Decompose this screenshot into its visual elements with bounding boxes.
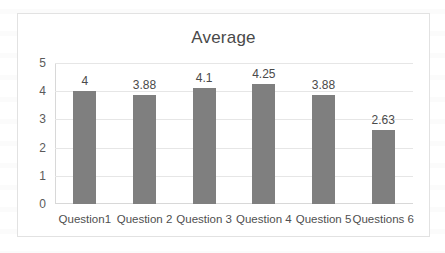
y-tick-label: 2 xyxy=(39,141,46,155)
bar-group: 4.1 Question 3 xyxy=(174,63,234,204)
bar[interactable] xyxy=(252,84,275,204)
bar-value-label: 4.1 xyxy=(174,71,234,85)
bar-group: 3.88 Question 2 xyxy=(115,63,175,204)
bar-value-label: 3.88 xyxy=(294,78,354,92)
chart-container: Average 5 4 3 2 1 0 4 Question1 3.88 Que… xyxy=(17,13,430,237)
bar-value-label: 4.25 xyxy=(234,67,294,81)
y-tick-label: 4 xyxy=(39,84,46,98)
x-tick-label: Questions 6 xyxy=(339,213,427,225)
bar-group: 4.25 Question 4 xyxy=(234,63,294,204)
plot-area: 5 4 3 2 1 0 4 Question1 3.88 Question 2 … xyxy=(55,63,413,204)
y-tick-label: 1 xyxy=(39,169,46,183)
y-tick-label: 3 xyxy=(39,112,46,126)
bar-group: 3.88 Question 5 xyxy=(294,63,354,204)
bar-group: 2.63 Questions 6 xyxy=(353,63,413,204)
bar-group: 4 Question1 xyxy=(55,63,115,204)
bar-value-label: 2.63 xyxy=(353,113,413,127)
bar-value-label: 3.88 xyxy=(115,78,175,92)
chart-title: Average xyxy=(18,28,429,48)
bar[interactable] xyxy=(312,95,335,204)
y-tick-label: 5 xyxy=(39,56,46,70)
bar[interactable] xyxy=(372,130,395,204)
bar-series: 4 Question1 3.88 Question 2 4.1 Question… xyxy=(55,63,413,204)
bar[interactable] xyxy=(133,95,156,204)
bar[interactable] xyxy=(193,88,216,204)
bar[interactable] xyxy=(73,91,96,204)
y-tick-label: 0 xyxy=(39,197,46,211)
bar-value-label: 4 xyxy=(55,74,115,88)
